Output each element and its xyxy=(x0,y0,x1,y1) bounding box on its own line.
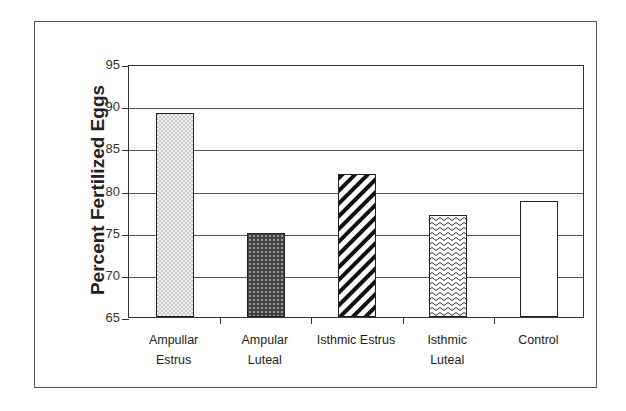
y-tick-label: 85 xyxy=(90,141,120,156)
bar-isthmic-estrus xyxy=(338,174,376,317)
plot-area xyxy=(128,65,584,318)
x-tick xyxy=(494,318,495,324)
x-tick xyxy=(403,318,404,324)
x-tick xyxy=(220,318,221,324)
bar-ampullar-estrus xyxy=(156,113,194,317)
bar-ampular-luteal xyxy=(247,233,285,317)
y-tick-label: 65 xyxy=(90,310,120,325)
y-tick-label: 95 xyxy=(90,57,120,72)
y-tick xyxy=(122,193,129,194)
y-tick-label: 80 xyxy=(90,184,120,199)
y-tick xyxy=(122,108,129,109)
bar-control xyxy=(520,201,558,317)
y-tick xyxy=(122,235,129,236)
y-tick xyxy=(122,150,129,151)
y-tick-label: 75 xyxy=(90,226,120,241)
y-tick-label: 70 xyxy=(90,268,120,283)
gridline xyxy=(129,150,583,151)
y-tick-label: 90 xyxy=(90,99,120,114)
y-tick xyxy=(122,66,129,67)
x-tick xyxy=(311,318,312,324)
gridline xyxy=(129,108,583,109)
y-tick xyxy=(122,277,129,278)
y-tick xyxy=(122,319,129,320)
x-tick-label: Control xyxy=(483,330,593,350)
bar-isthmic-luteal xyxy=(429,215,467,317)
